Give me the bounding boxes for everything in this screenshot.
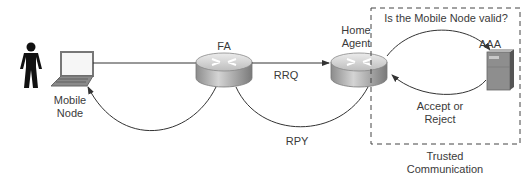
home-agent-label: Home Agent [338,24,374,50]
rrq-label: RRQ [271,69,301,82]
person-icon [20,43,42,89]
aaa-server-icon [487,49,514,90]
home-agent-label-line1: Home [338,24,374,37]
accept-reject-label: Accept or Reject [410,100,470,126]
validation-question: Is the Mobile Node valid? [376,12,516,25]
accept-label-line1: Accept or [410,100,470,113]
aaa-label: AAA [476,38,504,51]
accept-label-line2: Reject [410,113,470,126]
home-agent-router-icon [331,53,387,87]
mobile-node-label-line1: Mobile [50,94,90,107]
mobile-node-label-line2: Node [50,107,90,120]
mobile-node-label: Mobile Node [50,94,90,120]
home-agent-label-line2: Agent [338,37,374,50]
rpy-label: RPY [282,135,312,148]
fa-router-icon [196,53,252,87]
mobile-ip-diagram: Mobile Node FA RRQ RPY Home Agent Is the… [0,0,526,186]
trusted-label-line2: Communication [400,163,490,176]
trusted-communication-label: Trusted Communication [400,150,490,176]
laptop-icon [51,52,93,86]
trusted-label-line1: Trusted [400,150,490,163]
fa-label: FA [210,40,238,53]
